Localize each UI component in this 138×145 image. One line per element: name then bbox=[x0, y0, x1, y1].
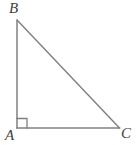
geometry-figure: B A C bbox=[0, 0, 138, 145]
right-angle-marker-icon bbox=[17, 119, 27, 129]
vertex-label-c: C bbox=[121, 126, 131, 141]
vertex-label-a: A bbox=[5, 128, 14, 143]
triangle-diagram bbox=[0, 0, 138, 145]
vertex-label-b: B bbox=[9, 1, 18, 16]
segment-bc bbox=[18, 21, 120, 129]
